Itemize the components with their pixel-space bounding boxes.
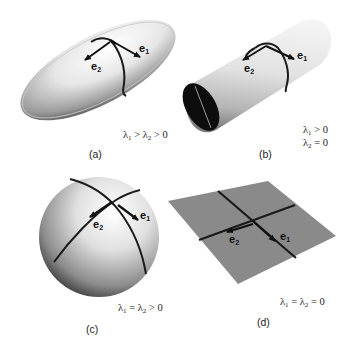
- panel-label-a: (a): [89, 148, 102, 160]
- panel-label-c: (c): [86, 323, 98, 335]
- panel-a: e1 e2 λ1 > λ2 > 0 (a): [6, 0, 190, 160]
- panel-c: e1 e2 λ1 = λ2 > 0 (c): [39, 177, 163, 335]
- eigenvalue-condition-c: λ1 = λ2 > 0: [118, 302, 163, 315]
- panel-label-d: (d): [257, 316, 270, 328]
- principal-curvature-figure: e1 e2 λ1 > λ2 > 0 (a) e1 e2 λ1 > 0 λ2 = …: [0, 0, 356, 350]
- sphere-shape: [39, 177, 159, 297]
- eigenvalue-condition-a: λ1 > λ2 > 0: [123, 129, 168, 142]
- eigenvalue-condition-b-line2: λ2 = 0: [303, 137, 328, 150]
- eigenvalue-condition-d: λ1 = λ2 = 0: [280, 296, 325, 309]
- cylinder-shape: [175, 19, 331, 137]
- panel-b: e1 e2 λ1 > 0 λ2 = 0 (b): [175, 19, 331, 160]
- eigenvalue-condition-b-line1: λ1 > 0: [303, 124, 328, 137]
- panel-label-b: (b): [259, 148, 272, 160]
- panel-d: e1 e2 λ1 = λ2 = 0 (d): [168, 181, 336, 328]
- plane-shape: [168, 181, 336, 284]
